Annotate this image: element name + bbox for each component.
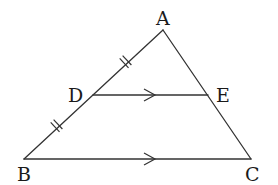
label-d: D bbox=[68, 84, 83, 106]
label-b: B bbox=[17, 163, 31, 185]
label-a: A bbox=[155, 7, 170, 29]
label-c: C bbox=[245, 163, 260, 185]
diagram-canvas: A D E B C bbox=[0, 0, 278, 185]
label-e: E bbox=[216, 84, 230, 106]
triangle-diagram: A D E B C bbox=[0, 0, 278, 185]
